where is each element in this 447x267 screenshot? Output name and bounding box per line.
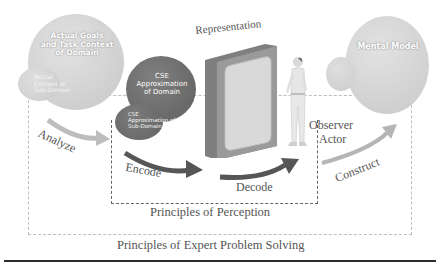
arrows-layer (0, 0, 447, 267)
bottom-rule (4, 260, 436, 262)
decode-label: Decode (236, 180, 273, 195)
decode-arrow-icon (220, 165, 285, 178)
expert-problem-solving-label: Principles of Expert Problem Solving (117, 238, 304, 253)
perception-box-label: Principles of Perception (150, 205, 270, 220)
